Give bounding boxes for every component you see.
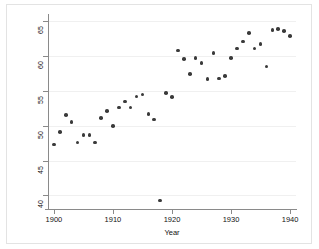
y-gridline [48, 126, 296, 127]
y-tick-label-text: 45 [37, 160, 45, 180]
y-gridline [48, 161, 296, 162]
scatter-chart-figure: life expectancy Year 4045505560651900191… [0, 0, 319, 249]
y-tick-label-text: 40 [37, 194, 45, 214]
data-point [235, 47, 239, 51]
data-point [152, 118, 156, 122]
data-point [70, 120, 74, 124]
data-point [111, 124, 115, 128]
y-tick-label-text: 60 [37, 55, 45, 75]
data-point [76, 141, 80, 145]
y-gridline [48, 91, 296, 92]
data-point [241, 40, 245, 44]
x-axis-line [45, 209, 297, 210]
data-point [93, 141, 97, 145]
data-point [158, 199, 162, 203]
y-tick-label-text: 50 [37, 125, 45, 145]
y-tick-label: 55 [19, 86, 41, 96]
data-point [170, 95, 174, 99]
data-point [135, 95, 139, 99]
data-point [271, 28, 275, 32]
data-point [141, 93, 145, 97]
x-axis-title: Year [48, 228, 296, 237]
data-point [206, 77, 210, 81]
y-gridline [48, 195, 296, 196]
y-tick-label: 60 [19, 51, 41, 61]
x-tick-label: 1910 [93, 215, 133, 224]
data-point [176, 49, 180, 53]
data-point [288, 34, 292, 38]
data-point [99, 116, 103, 120]
x-axis-tick [113, 210, 114, 214]
data-point [276, 27, 280, 31]
data-point [265, 65, 269, 69]
data-point [52, 143, 56, 147]
y-axis-line [48, 14, 49, 210]
y-tick-label: 50 [19, 121, 41, 131]
x-tick-label: 1900 [34, 215, 74, 224]
y-tick-label: 40 [19, 190, 41, 200]
x-tick-label: 1920 [152, 215, 192, 224]
y-gridline [48, 56, 296, 57]
plot-area [48, 17, 296, 208]
data-point [129, 106, 133, 110]
data-point [200, 61, 204, 65]
data-point [182, 57, 186, 61]
data-point [147, 112, 151, 116]
data-point [58, 130, 62, 134]
y-gridline [48, 21, 296, 22]
data-point [164, 91, 168, 95]
x-axis-tick [54, 210, 55, 214]
x-tick-label: 1930 [211, 215, 251, 224]
data-point [105, 109, 109, 113]
x-axis-tick [231, 210, 232, 214]
x-axis-tick [172, 210, 173, 214]
data-point [229, 56, 233, 60]
data-point [82, 133, 86, 137]
data-point [217, 77, 221, 81]
x-axis-tick [290, 210, 291, 214]
y-tick-label-text: 65 [37, 20, 45, 40]
data-point [259, 42, 263, 46]
data-point [188, 72, 192, 76]
y-axis-title: life expectancy [14, 0, 24, 17]
data-point [282, 29, 286, 33]
y-tick-label-text: 55 [37, 90, 45, 110]
y-tick-label: 45 [19, 156, 41, 166]
data-point [212, 51, 216, 55]
data-point [223, 74, 227, 78]
data-point [88, 133, 92, 137]
y-tick-label: 65 [19, 16, 41, 26]
data-point [117, 106, 121, 110]
x-tick-label: 1940 [270, 215, 310, 224]
data-point [253, 47, 257, 51]
data-point [123, 100, 127, 104]
data-point [194, 56, 198, 60]
data-point [247, 31, 251, 35]
data-point [64, 113, 68, 117]
